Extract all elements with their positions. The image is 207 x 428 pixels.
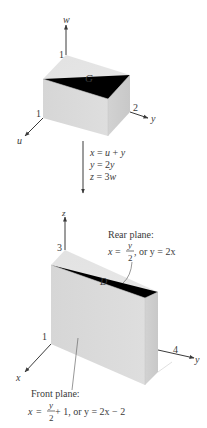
transformation-diagram: w 1 G 2 y 1 u x = u + y y = 2y z = 3w z … (0, 0, 207, 428)
w-axis-label: w (63, 14, 70, 25)
svg-text:2: 2 (49, 413, 54, 423)
u-tick-label: 1 (36, 108, 41, 119)
u-axis (25, 118, 43, 136)
svg-text:y: y (127, 240, 132, 250)
svg-text:+ 1, or y = 2x − 2: + 1, or y = 2x − 2 (55, 406, 125, 417)
transformation-block: x = u + y y = 2y z = 3w (83, 141, 126, 193)
z-axis-label: z (61, 208, 66, 218)
svg-text:=: = (115, 246, 121, 257)
svg-text:=: = (36, 406, 42, 417)
region-d-label: D (99, 276, 108, 287)
w-tick-label: 1 (59, 49, 64, 60)
transform-eq-z: z = 3w (89, 171, 117, 182)
region-g-label: G (85, 72, 93, 84)
front-plane-title: Front plane: (31, 388, 80, 399)
floor-line (158, 362, 172, 372)
x-axis-label: x (15, 372, 21, 383)
box-d-side-face (145, 292, 158, 385)
rear-plane-title: Rear plane: (108, 229, 154, 240)
svg-text:2: 2 (128, 253, 133, 263)
svg-text:x: x (27, 406, 33, 417)
transform-eq-y: y = 2y (89, 159, 115, 170)
rear-plane-equation: x = y 2 , or y = 2x (107, 240, 175, 263)
svg-text:x: x (107, 246, 113, 257)
svg-text:, or y = 2x: , or y = 2x (134, 246, 175, 257)
front-plane-equation: x = y 2 + 1, or y = 2x − 2 (27, 400, 125, 423)
y-axis-label: y (150, 113, 156, 124)
x-axis (25, 344, 51, 372)
z-tick-label: 3 (57, 242, 62, 253)
svg-text:y: y (48, 400, 53, 410)
region-g-figure: w 1 G 2 y 1 u (17, 14, 156, 146)
region-d-figure: z 3 D 4 y 1 x Rear plane: x = y 2 , or y… (15, 208, 200, 423)
y-tick-label-d: 4 (173, 344, 178, 355)
u-axis-label: u (17, 135, 22, 146)
y-axis-label-d: y (194, 354, 200, 365)
transform-eq-x: x = u + y (89, 147, 126, 158)
y-tick-label: 2 (133, 102, 138, 113)
x-tick-label: 1 (42, 331, 47, 342)
